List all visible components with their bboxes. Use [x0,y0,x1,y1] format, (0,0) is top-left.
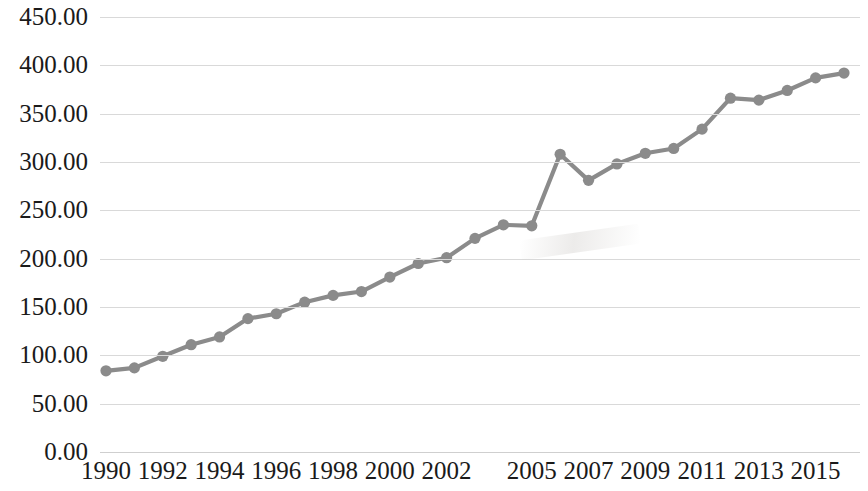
gridline [100,114,860,115]
x-axis-tick-label: 1992 [138,457,188,485]
y-axis-tick-label: 300.00 [19,148,88,176]
data-point-marker: 2004: 235 [498,219,509,230]
data-point-marker: 2016: 392 [838,67,849,78]
data-point-marker: 2005: 234 [526,220,537,231]
data-point-marker: 1990: 84 [100,365,111,376]
data-point-marker: 1998: 162 [327,290,338,301]
data-point-marker: 2006: 308 [555,149,566,160]
x-axis-tick-label: 1998 [308,457,358,485]
data-point-marker: 1994: 119 [214,331,225,342]
data-point-marker: 2014: 374 [782,85,793,96]
y-axis-tick-label: 450.00 [19,3,88,31]
y-axis: 0.0050.00100.00150.00200.00250.00300.003… [0,0,96,452]
x-axis: 1990199219941996199820002002200520072009… [100,455,860,491]
x-axis-tick-label: 2002 [422,457,472,485]
y-axis-tick-label: 350.00 [19,100,88,128]
data-point-marker: 2000: 181 [384,271,395,282]
data-point-marker: 2011: 334 [696,124,707,135]
data-point-marker: 1995: 138 [242,313,253,324]
plot-area: 1990: 841991: 871992: 991993: 1111994: 1… [100,17,860,452]
data-point-marker: 2008: 298 [611,158,622,169]
data-point-marker: 1993: 111 [186,339,197,350]
gridline [100,452,860,453]
gridline [100,65,860,66]
x-axis-tick-label: 2009 [620,457,670,485]
x-axis-tick-label: 2000 [365,457,415,485]
y-axis-tick-label: 250.00 [19,196,88,224]
x-axis-tick-label: 2005 [507,457,557,485]
gridline [100,162,860,163]
x-axis-tick-label: 1994 [195,457,245,485]
data-point-marker: 2015: 387 [810,72,821,83]
data-point-marker: 2013: 364 [753,95,764,106]
y-axis-tick-label: 100.00 [19,341,88,369]
gridline [100,259,860,260]
data-point-marker: 1996: 143 [271,308,282,319]
gridline [100,355,860,356]
data-series-line: 1990: 841991: 871992: 991993: 1111994: 1… [100,17,860,452]
data-point-marker: 2007: 281 [583,175,594,186]
x-axis-tick-label: 2007 [564,457,614,485]
y-axis-tick-label: 150.00 [19,293,88,321]
gridline [100,17,860,18]
x-axis-tick-label: 2015 [791,457,841,485]
data-point-marker: 2010: 314 [668,143,679,154]
data-point-marker: 1991: 87 [129,362,140,373]
x-axis-tick-label: 1990 [81,457,131,485]
gridline [100,404,860,405]
gridline [100,210,860,211]
y-axis-tick-label: 400.00 [19,51,88,79]
data-point-marker: 1999: 166 [356,286,367,297]
x-axis-tick-label: 2011 [678,457,727,485]
line-chart: 0.0050.00100.00150.00200.00250.00300.003… [0,0,868,491]
gridline [100,307,860,308]
data-point-marker: 2012: 366 [725,93,736,104]
data-point-marker: 2009: 309 [640,148,651,159]
y-axis-tick-label: 200.00 [19,245,88,273]
y-axis-tick-label: 50.00 [32,390,88,418]
x-axis-tick-label: 2013 [734,457,784,485]
series-polyline [106,73,844,371]
data-point-marker: 2003: 221 [469,233,480,244]
x-axis-tick-label: 1996 [251,457,301,485]
